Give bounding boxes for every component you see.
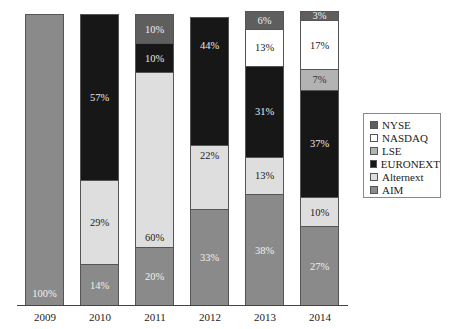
x-axis-line [17,305,348,306]
data-label: 38% [255,245,274,256]
bar-segment-nyse: 10% [135,14,174,44]
data-label: 44% [200,40,219,51]
bar-segment-alternext: 10% [300,197,339,227]
data-label: 14% [90,280,109,291]
legend-label: AIM [382,184,403,196]
legend-label: LSE [382,145,402,157]
bar-segment-aim: 38% [245,194,284,306]
data-label: 29% [90,217,109,228]
bar-segment-aim: 100% [25,14,64,306]
bar-segment-euronext: 37% [300,90,339,199]
bar-2010: 14%29%57% [80,14,119,305]
bar-segment-alternext: 29% [80,180,119,265]
bar-2012: 33%22%44% [190,14,229,305]
legend-label: NYSE [382,119,411,131]
legend-swatch-icon [370,186,378,194]
bar-segment-nyse: 6% [245,11,284,29]
bar-2013: 38%13%31%13%6% [245,14,284,305]
legend-swatch-icon [370,121,378,129]
legend-swatch-icon [370,134,378,142]
legend-swatch-icon [370,147,378,155]
bar-2009: 100% [25,14,64,305]
legend-item-euronext: EURONEXT [370,157,440,170]
bar-segment-nasdaq: 13% [245,29,284,68]
bar-segment-euronext: 57% [80,14,119,181]
bar-segment-alternext: 22% [190,145,229,210]
legend-item-nasdaq: NASDAQ [370,131,440,144]
legend-item-alternext: Alternext [370,170,440,183]
bar-segment-euronext: 44% [190,17,229,146]
data-label: 13% [255,170,274,181]
bar-segment-alternext: 60% [135,72,174,248]
bar-segment-alternext: 13% [245,157,284,196]
data-label: 7% [313,74,327,85]
legend-item-lse: LSE [370,144,440,157]
data-label: 37% [310,138,329,149]
data-label: 22% [200,150,219,161]
legend-label: NASDAQ [382,132,428,144]
data-label: 13% [255,42,274,53]
data-label: 31% [255,106,274,117]
legend-label: EURONEXT [381,158,440,170]
bar-segment-nasdaq: 17% [300,20,339,70]
bar-segment-aim: 33% [190,209,229,306]
bar-segment-aim: 27% [300,226,339,306]
bar-segment-aim: 14% [80,264,119,306]
x-tick-label: 2014 [295,311,345,323]
data-label: 10% [310,207,329,218]
legend: NYSE NASDAQ LSE EURONEXT Alternext AIM [363,113,441,198]
bar-2011: 20%60%10%10% [135,14,174,305]
legend-item-aim: AIM [370,183,440,196]
data-label: 6% [258,15,272,26]
data-label: 27% [310,261,329,272]
x-tick-label: 2012 [185,311,235,323]
x-tick-label: 2010 [75,311,125,323]
bar-segment-euronext: 10% [135,43,174,73]
bar-segment-nyse: 3% [300,11,339,21]
data-label: 100% [32,288,57,299]
data-label: 60% [145,232,164,243]
data-label: 10% [145,24,164,35]
data-label: 33% [200,252,219,263]
bar-segment-aim: 20% [135,247,174,306]
data-label: 17% [310,40,329,51]
x-tick-label: 2011 [130,311,180,323]
bar-segment-lse: 7% [300,69,339,90]
x-tick-label: 2009 [20,311,70,323]
x-tick-label: 2013 [240,311,290,323]
bar-2014: 27%10%37%7%17%3% [300,14,339,305]
legend-label: Alternext [382,171,424,183]
legend-swatch-icon [370,160,377,168]
data-label: 3% [313,10,327,21]
data-label: 10% [145,53,164,64]
legend-swatch-icon [370,173,378,181]
data-label: 57% [90,92,109,103]
legend-item-nyse: NYSE [370,118,440,131]
data-label: 20% [145,271,164,282]
bar-segment-euronext: 31% [245,66,284,157]
stacked-bar-chart: 100%14%29%57%20%60%10%10%33%22%44%38%13%… [0,0,460,329]
